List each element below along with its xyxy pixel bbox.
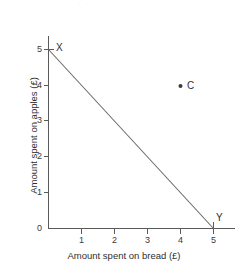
budget-line-chart: · · 1 2 3 4 5 0 1 2 3 4 5 X Y C Amount s…: [0, 0, 248, 272]
point-label-x: X: [56, 43, 63, 53]
x-tick-label-3: 4: [174, 236, 188, 245]
x-tick-label-4: 5: [207, 236, 221, 245]
point-c-marker: [179, 84, 183, 88]
point-label-c: C: [187, 81, 194, 91]
y-axis-title: Amount spent on apples (£): [28, 41, 39, 231]
budget-line-xy: [49, 50, 214, 229]
x-axis-title: Amount spent on bread (£): [0, 250, 248, 261]
point-label-y: Y: [216, 213, 223, 223]
x-tick-label-0: 1: [75, 236, 89, 245]
x-tick-label-2: 3: [141, 236, 155, 245]
x-tick-label-1: 2: [108, 236, 122, 245]
